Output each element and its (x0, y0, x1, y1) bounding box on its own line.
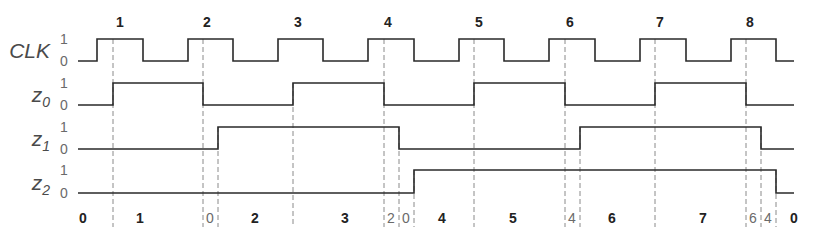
waveform-trace (78, 170, 794, 193)
level-high-label: 1 (60, 31, 68, 47)
level-low-label: 0 (60, 185, 68, 201)
level-low-label: 0 (60, 97, 68, 113)
waveform-trace (78, 83, 794, 105)
transient-state-label: 4 (568, 210, 576, 226)
waveform-trace (78, 39, 794, 61)
level-high-label: 1 (60, 119, 68, 135)
state-label: 3 (341, 210, 349, 226)
clock-edge-number: 5 (475, 14, 483, 30)
signal-name-label: z0 (31, 83, 51, 110)
signal-name-label: z1 (31, 127, 50, 154)
state-label: 5 (509, 210, 517, 226)
state-label: 1 (136, 210, 144, 226)
state-label: 0 (79, 210, 87, 226)
transient-state-label: 4 (764, 210, 772, 226)
clock-edge-number: 6 (566, 14, 574, 30)
state-label: 4 (438, 210, 446, 226)
signal-z2: z210 (31, 162, 794, 201)
state-label: 7 (699, 210, 707, 226)
timing-diagram: 12345678 CLK10z010z110z210 0102320454676… (0, 0, 816, 241)
level-high-label: 1 (60, 75, 68, 91)
state-label: 6 (608, 210, 616, 226)
signal-waveforms: CLK10z010z110z210 (9, 31, 794, 201)
level-low-label: 0 (60, 53, 68, 69)
clock-edge-number: 2 (203, 14, 211, 30)
level-low-label: 0 (60, 141, 68, 157)
transient-state-label: 0 (206, 210, 214, 226)
state-sequence-row: 010232045467640 (79, 210, 798, 226)
waveform-trace (78, 127, 794, 149)
dashed-guide-lines (113, 39, 776, 227)
state-label: 2 (251, 210, 259, 226)
clock-edge-number: 4 (384, 14, 392, 30)
signal-z0: z010 (31, 75, 794, 113)
transient-state-label: 2 (387, 210, 395, 226)
signal-name-label: CLK (9, 39, 51, 62)
signal-name-label: z2 (31, 171, 51, 198)
clock-edge-number: 8 (746, 14, 754, 30)
signal-clk: CLK10 (9, 31, 794, 69)
clock-edge-number: 7 (656, 14, 664, 30)
transient-state-label: 0 (402, 210, 410, 226)
clock-edge-numbers: 12345678 (116, 14, 754, 30)
state-label: 0 (790, 210, 798, 226)
clock-edge-number: 3 (294, 14, 302, 30)
clock-edge-number: 1 (116, 14, 124, 30)
transient-state-label: 6 (749, 210, 757, 226)
level-high-label: 1 (60, 162, 68, 178)
signal-z1: z110 (31, 119, 794, 157)
